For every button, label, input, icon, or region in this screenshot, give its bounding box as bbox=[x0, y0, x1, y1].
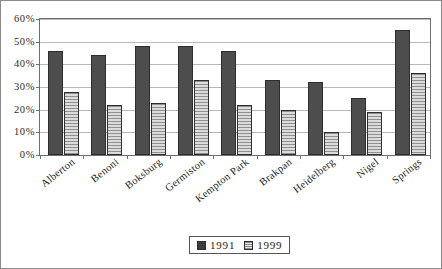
plot-area bbox=[39, 18, 431, 156]
bar-1999-springs bbox=[411, 73, 426, 155]
bar-1991-heidelberg bbox=[308, 82, 323, 155]
y-tick-label: 30% bbox=[14, 81, 35, 92]
bar-group bbox=[170, 19, 213, 155]
bar-group bbox=[213, 19, 256, 155]
bar-group bbox=[300, 19, 343, 155]
x-tick-label: Benoni bbox=[88, 156, 120, 184]
bar-group bbox=[343, 19, 386, 155]
y-tick-label: 40% bbox=[14, 58, 35, 69]
legend-entry-1991: 1991 bbox=[197, 239, 235, 251]
bar-1991-alberton bbox=[48, 51, 63, 155]
x-tick-label: Alberton bbox=[39, 156, 77, 189]
x-tick-label: Nigel bbox=[354, 156, 380, 180]
bar-1991-boksburg bbox=[135, 46, 150, 155]
bar-1999-heidelberg bbox=[324, 132, 339, 155]
x-tick-label: Heidelberg bbox=[291, 156, 337, 195]
legend-label: 1999 bbox=[257, 239, 282, 251]
legend-entry-1999: 1999 bbox=[244, 239, 282, 251]
bar-1991-brakpan bbox=[265, 80, 280, 155]
y-tick-label: 20% bbox=[14, 103, 35, 114]
bar-1999-alberton bbox=[64, 92, 79, 155]
bar-1999-kempton-park bbox=[237, 105, 252, 155]
bar-1991-germiston bbox=[178, 46, 193, 155]
legend-label: 1991 bbox=[210, 239, 235, 251]
x-tick-label: Springs bbox=[390, 156, 424, 186]
x-tick-label: Boksburg bbox=[123, 156, 164, 191]
bar-1999-brakpan bbox=[281, 110, 296, 155]
bar-1991-benoni bbox=[91, 55, 106, 155]
x-tick-label: Brakpan bbox=[257, 156, 293, 188]
legend-swatch-icon-1999 bbox=[244, 241, 253, 250]
x-tick-mark bbox=[430, 155, 431, 159]
bar-1999-benoni bbox=[107, 105, 122, 155]
x-axis: AlbertonBenoniBoksburgGermistonKempton P… bbox=[39, 156, 429, 228]
bar-chart-figure: 60%50%40%30%20%10%0% AlbertonBenoniBoksb… bbox=[0, 0, 442, 269]
y-tick-label: 60% bbox=[14, 13, 35, 24]
y-tick-label: 10% bbox=[14, 126, 35, 137]
chart-legend: 19911999 bbox=[189, 236, 290, 254]
bar-group bbox=[40, 19, 83, 155]
bar-1991-nigel bbox=[351, 98, 366, 155]
bar-1999-nigel bbox=[367, 112, 382, 155]
bar-1991-springs bbox=[395, 30, 410, 155]
bar-group bbox=[127, 19, 170, 155]
y-axis: 60%50%40%30%20%10%0% bbox=[1, 1, 37, 161]
y-tick-label: 0% bbox=[20, 149, 35, 160]
bar-1991-kempton-park bbox=[221, 51, 236, 155]
x-tick-label: Germiston bbox=[163, 156, 207, 194]
bar-group bbox=[387, 19, 430, 155]
bar-group bbox=[257, 19, 300, 155]
legend-swatch-icon-1991 bbox=[197, 241, 206, 250]
bar-1999-germiston bbox=[194, 80, 209, 155]
bar-1999-boksburg bbox=[151, 103, 166, 155]
y-tick-label: 50% bbox=[14, 35, 35, 46]
bar-group bbox=[83, 19, 126, 155]
